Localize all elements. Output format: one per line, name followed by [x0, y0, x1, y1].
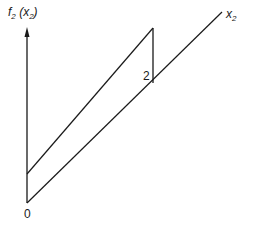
- diagram-canvas: [0, 0, 253, 229]
- upper-line: [27, 28, 153, 174]
- y-axis-arrow-icon: [25, 27, 30, 37]
- y-axis-label: f2 (x2): [8, 6, 38, 21]
- jump-label: 2: [143, 70, 150, 82]
- x-axis-label: x2: [226, 8, 236, 23]
- x-axis-diagonal: [27, 12, 222, 203]
- origin-label: 0: [24, 208, 31, 220]
